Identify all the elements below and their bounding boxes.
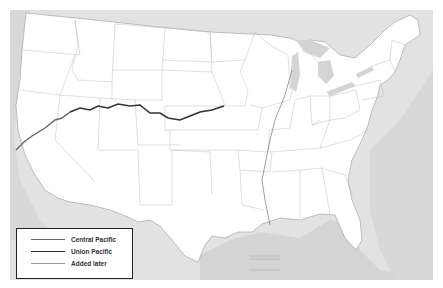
legend-item-union-pacific: Union Pacific [31, 248, 112, 255]
legend-label: Added later [71, 260, 107, 267]
union-pacific-swatch [31, 251, 65, 252]
central-pacific-swatch [31, 239, 65, 240]
legend-label: Union Pacific [71, 248, 112, 255]
legend-label: Central Pacific [71, 236, 116, 243]
added-later-swatch [31, 263, 65, 264]
legend-item-central-pacific: Central Pacific [31, 236, 116, 243]
railroad-map: Central Pacific Union Pacific Added late… [0, 0, 443, 288]
legend-item-added-later: Added later [31, 260, 107, 267]
legend-box: Central Pacific Union Pacific Added late… [16, 228, 133, 279]
